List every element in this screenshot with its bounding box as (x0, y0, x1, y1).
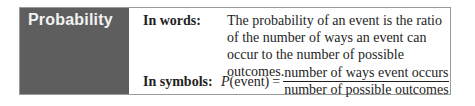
in-symbols-term: In symbols: (143, 73, 221, 90)
fraction-denominator: number of possible outcomes (283, 82, 449, 97)
formula-equals: = (272, 74, 280, 90)
label-cell: Probability (20, 8, 129, 94)
in-symbols-row: In symbols: P(event) = number of ways ev… (143, 66, 450, 97)
formula-lhs: P(event) (221, 74, 269, 90)
formula-fraction: number of ways event occurs number of po… (283, 66, 449, 97)
probability-formula: P(event) = number of ways event occurs n… (221, 66, 450, 97)
box-title: Probability (28, 11, 113, 29)
formula-function: P (221, 74, 230, 89)
content-cell: In words: The probability of an event is… (129, 8, 450, 94)
probability-definition-box: Probability In words: The probability of… (19, 7, 451, 95)
formula-argument: (event) (230, 74, 270, 89)
fraction-numerator: number of ways event occurs (283, 66, 449, 82)
